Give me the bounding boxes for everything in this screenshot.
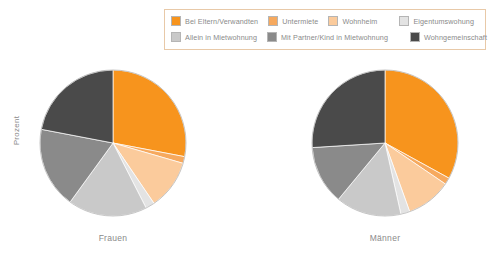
pie-label-maenner: Männer — [310, 233, 460, 243]
legend-item-label: Allein in Mietwohnung — [185, 33, 257, 42]
legend-swatch-icon — [171, 16, 181, 26]
legend-item-label: Eigentumswohung — [413, 17, 474, 26]
pie-chart-frauen: Frauen — [38, 68, 188, 243]
pie-svg-frauen — [38, 68, 188, 218]
pie-slice[interactable] — [312, 70, 385, 148]
legend-swatch-icon — [267, 32, 277, 42]
legend-row-1: Bei Eltern/VerwandtenUntermieteWohnheimE… — [171, 14, 479, 28]
legend-swatch-icon — [328, 16, 338, 26]
legend-swatch-icon — [268, 16, 278, 26]
legend-item-label: Untermiete — [282, 17, 318, 26]
pie-slice[interactable] — [113, 70, 186, 157]
legend-item-wohngemeinschaft[interactable]: Wohngemeinschaft — [410, 30, 487, 44]
pie-svg-maenner — [310, 68, 460, 218]
legend-item-eigentumswohung[interactable]: Eigentumswohung — [399, 14, 474, 28]
legend-row-2: Allein in MietwohnungMit Partner/Kind in… — [171, 30, 479, 44]
legend-item-untermiete[interactable]: Untermiete — [268, 14, 318, 28]
legend-swatch-icon — [171, 32, 181, 42]
chart-canvas: Bei Eltern/VerwandtenUntermieteWohnheimE… — [0, 0, 492, 257]
legend-swatch-icon — [399, 16, 409, 26]
pie-chart-maenner: Männer — [310, 68, 460, 243]
legend-item-bei-eltern-verwandten[interactable]: Bei Eltern/Verwandten — [171, 14, 258, 28]
legend-swatch-icon — [410, 32, 420, 42]
pie-label-frauen: Frauen — [38, 233, 188, 243]
legend-item-label: Wohngemeinschaft — [424, 33, 487, 42]
legend-item-allein-in-mietwohnung[interactable]: Allein in Mietwohnung — [171, 30, 257, 44]
legend-item-label: Wohnheim — [342, 17, 377, 26]
legend-item-label: Bei Eltern/Verwandten — [185, 17, 258, 26]
chart-legend: Bei Eltern/VerwandtenUntermieteWohnheimE… — [164, 9, 486, 50]
y-axis-label: Prozent — [12, 101, 21, 161]
legend-item-mit-partner-kind-in-mietwohnung[interactable]: Mit Partner/Kind in Mietwohnung — [267, 30, 388, 44]
legend-item-wohnheim[interactable]: Wohnheim — [328, 14, 377, 28]
legend-item-label: Mit Partner/Kind in Mietwohnung — [281, 33, 388, 42]
